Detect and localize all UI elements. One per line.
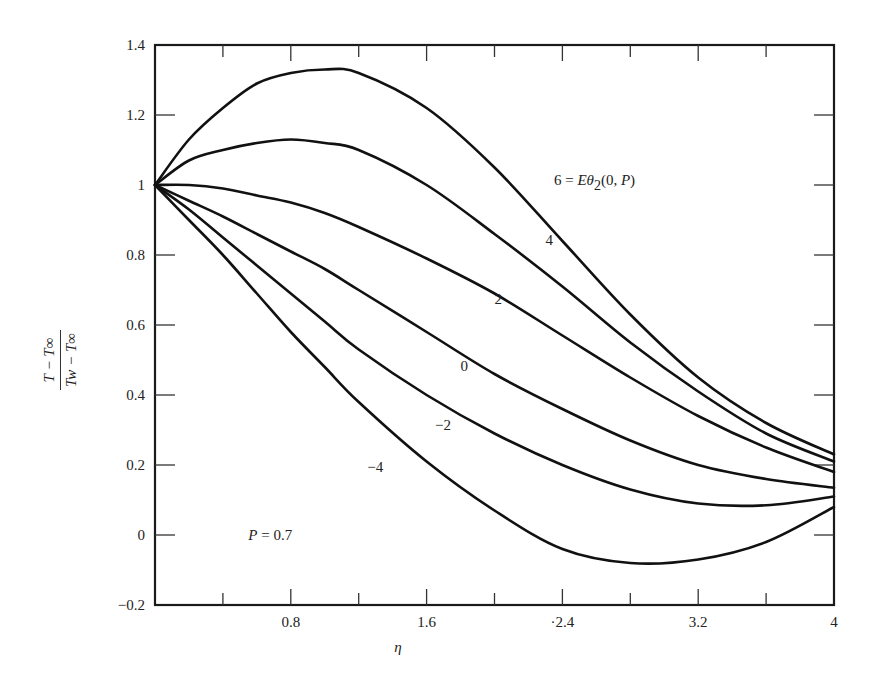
curve-label-6: 6 = Eθ2(0, P)	[554, 172, 635, 193]
curve-6	[155, 69, 834, 455]
annotation-p-value: P = 0.7	[247, 527, 292, 543]
x-tick-label: 4	[830, 614, 838, 630]
y-tick-label: 0.4	[126, 387, 145, 403]
y-tick-label: 0	[138, 527, 146, 543]
y-axis-label-numerator: T − T∞	[41, 336, 58, 385]
curve-label-neg4: −4	[367, 459, 383, 475]
axis-ticks: 0.81.6·2.43.24−0.200.20.40.60.811.21.4	[118, 37, 838, 630]
x-tick-label: 0.8	[281, 614, 300, 630]
x-tick-label: 1.6	[417, 614, 436, 630]
chart-canvas: 0.81.6·2.43.24−0.200.20.40.60.811.21.4 6…	[0, 0, 877, 691]
y-tick-label: −0.2	[118, 597, 145, 613]
y-tick-label: 0.6	[126, 317, 145, 333]
fraction-bar	[60, 330, 61, 390]
y-tick-label: 0.2	[126, 457, 145, 473]
plot-border	[155, 45, 834, 605]
y-axis-label: T − T∞ Tw − T∞	[0, 330, 120, 390]
y-tick-label: 1.2	[126, 107, 145, 123]
y-axis-label-denominator: Tw − T∞	[63, 331, 80, 389]
curve-label-0: 0	[461, 358, 469, 374]
x-tick-label: ·2.4	[551, 614, 575, 630]
curve-label-neg2: −2	[435, 417, 451, 433]
curve-label-2: 2	[495, 291, 503, 307]
curve-2	[155, 185, 834, 472]
y-tick-label: 0.8	[126, 247, 145, 263]
curves	[155, 69, 834, 564]
y-tick-label: 1	[138, 177, 146, 193]
curve-label-4: 4	[545, 232, 553, 248]
x-tick-label: 3.2	[689, 614, 708, 630]
curve-0	[155, 185, 834, 488]
x-axis-label: η	[394, 639, 401, 655]
plot-frame	[155, 45, 834, 605]
curve-labels: 6 = Eθ2(0, P)420−2−4	[367, 172, 635, 475]
y-tick-label: 1.4	[126, 37, 145, 53]
